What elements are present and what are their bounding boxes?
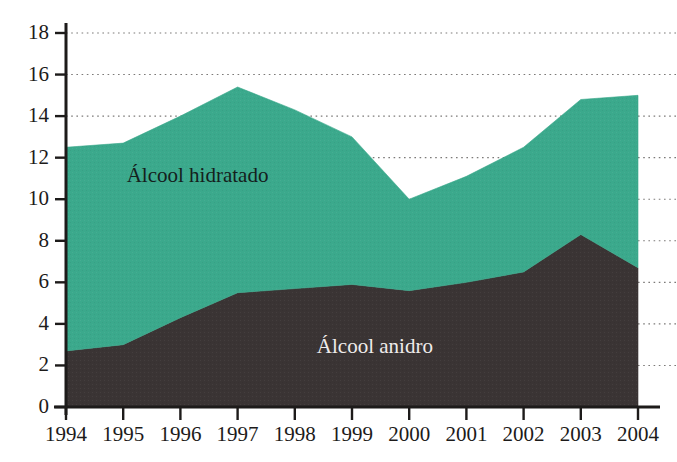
area-series-group: [66, 87, 638, 407]
y-tick-label: 12: [15, 147, 49, 168]
y-tick-label: 4: [15, 313, 49, 334]
chart-plot-area: [0, 0, 677, 462]
y-tick-label: 8: [15, 230, 49, 251]
series-label-alcool-anidro: Álcool anidro: [317, 336, 433, 357]
x-tick-label: 2004: [603, 424, 673, 445]
y-tick-label: 14: [15, 105, 49, 126]
stacked-area-chart: 024681012141618 199419951996199719981999…: [0, 0, 677, 462]
y-tick-label: 18: [15, 22, 49, 43]
y-tick-label: 10: [15, 188, 49, 209]
y-tick-label: 0: [15, 396, 49, 417]
y-tick-label: 16: [15, 64, 49, 85]
series-label-alcool-hidratado: Álcool hidratado: [127, 165, 269, 186]
y-tick-label: 2: [15, 354, 49, 375]
y-tick-label: 6: [15, 271, 49, 292]
